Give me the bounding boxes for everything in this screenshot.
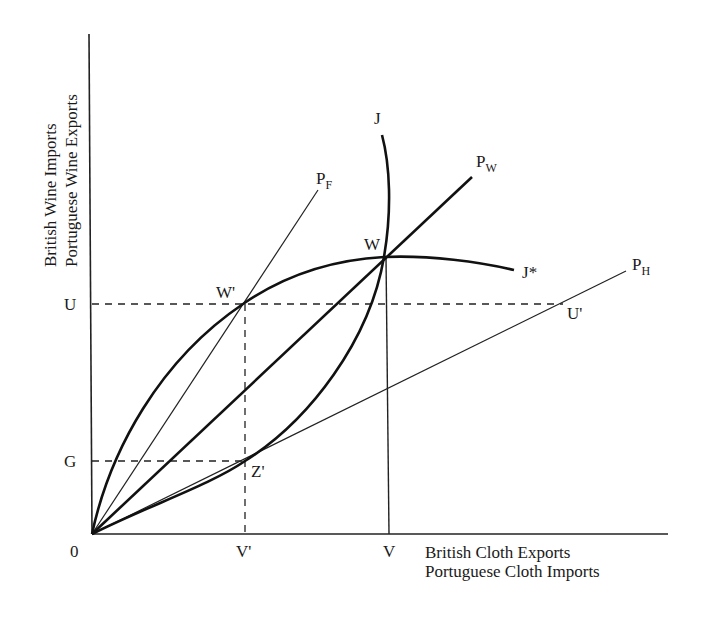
x-axis-title-line2: Portuguese Cloth Imports (425, 562, 600, 581)
offer-curve-j (92, 135, 389, 534)
y-axis (89, 34, 92, 534)
origin-label: 0 (70, 543, 79, 560)
point-label-z-prime: Z' (251, 463, 264, 480)
y-axis-title-line1: British Wine Imports (40, 94, 61, 267)
y-axis-title: British Wine Imports Portuguese Wine Exp… (40, 94, 82, 267)
v-vertical-line (386, 257, 389, 534)
tick-label-v: V (383, 543, 395, 560)
curve-label-j-star-asterisk: * (529, 263, 538, 282)
price-label-pf: PF (316, 170, 332, 187)
price-label-pw-subscript: W (485, 161, 496, 175)
price-label-ph: PH (632, 256, 650, 273)
tick-label-u: U (64, 296, 76, 313)
tick-label-v-prime: V' (236, 543, 251, 560)
curve-label-j-star: J* (522, 264, 537, 281)
offer-curve-diagram (0, 0, 706, 621)
curve-label-j: J (374, 110, 381, 127)
curve-label-j-star-letter: J (522, 263, 529, 282)
price-label-pw: PW (476, 153, 497, 170)
price-label-pf-subscript: F (325, 178, 332, 192)
price-line-pw (92, 177, 472, 534)
point-label-w: W (364, 236, 380, 253)
x-axis-title-line1: British Cloth Exports (425, 543, 600, 562)
tick-label-g: G (64, 453, 76, 470)
x-axis-title: British Cloth Exports Portuguese Cloth I… (425, 543, 600, 581)
y-axis-title-line2: Portuguese Wine Exports (61, 94, 82, 267)
point-label-u-prime: U' (567, 305, 582, 322)
offer-curve-j-star (92, 257, 514, 534)
point-label-w-prime: W' (216, 284, 235, 301)
price-line-ph (92, 271, 626, 534)
price-label-ph-subscript: H (641, 264, 650, 278)
